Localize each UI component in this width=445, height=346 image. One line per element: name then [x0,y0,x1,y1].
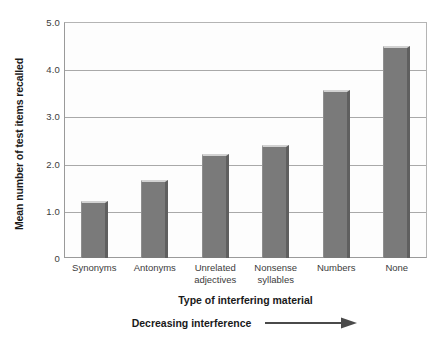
bar-slot [202,22,229,258]
x-tick-label-line: adjectives [185,274,246,286]
annotation-label: Decreasing interference [132,317,252,329]
y-tick-label: 4.0 [2,64,60,75]
bar[interactable] [262,145,289,258]
bar[interactable] [323,90,350,258]
bar-series [64,22,427,258]
x-axis-title: Type of interfering material [64,294,427,306]
x-tick-label: Antonyms [125,262,186,274]
bar-slot [383,22,410,258]
bar-slot [323,22,350,258]
x-tick-label: Nonsensesyllables [246,262,307,285]
bar-chart-figure: Mean number of test items recalled 01.02… [0,0,445,346]
x-tick-label-line: Antonyms [125,262,186,274]
y-tick-label: 1.0 [2,205,60,216]
y-tick-label: 2.0 [2,158,60,169]
bar-slot [81,22,108,258]
y-axis-tick-labels: 01.02.03.04.05.0 [0,22,60,258]
bar[interactable] [383,46,410,258]
x-tick-label-line: Synonyms [64,262,125,274]
bar-slot [141,22,168,258]
bar-slot [262,22,289,258]
bar[interactable] [141,180,168,258]
y-tick-label: 5.0 [2,17,60,28]
x-tick-label: None [367,262,428,274]
bar[interactable] [81,201,108,258]
y-tick-label: 0 [2,253,60,264]
interference-annotation: Decreasing interference [64,316,427,330]
x-tick-label: Numbers [306,262,367,274]
bar[interactable] [202,154,229,258]
x-tick-label: Synonyms [64,262,125,274]
y-tick-label: 3.0 [2,111,60,122]
x-tick-label-line: Nonsense [246,262,307,274]
x-tick-label-line: Unrelated [185,262,246,274]
x-axis-tick-labels: SynonymsAntonymsUnrelatedadjectivesNonse… [64,262,427,298]
x-tick-label-line: syllables [246,274,307,286]
x-tick-label-line: Numbers [306,262,367,274]
right-arrow-icon [263,316,359,330]
x-tick-label-line: None [367,262,428,274]
x-tick-label: Unrelatedadjectives [185,262,246,285]
